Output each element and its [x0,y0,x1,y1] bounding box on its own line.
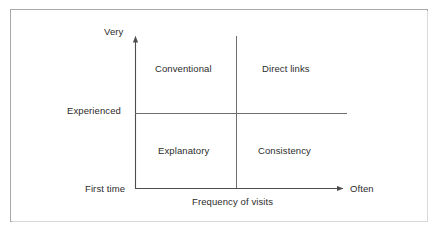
quadrant-label-top-right: Direct links [262,63,310,74]
quadrant-label-bottom-left: Explanatory [158,145,209,156]
quadrant-label-top-left: Conventional [155,63,212,74]
x-axis-end-label: Often [350,183,374,194]
y-axis-bottom-label: First time [85,183,125,194]
quadrant-label-bottom-right: Consistency [258,145,311,156]
diagram-page: Very Experienced First time Often Freque… [0,0,438,234]
y-axis-middle-label: Experienced [67,105,121,116]
y-axis-top-label: Very [104,26,123,37]
x-axis-caption: Frequency of visits [192,196,273,207]
